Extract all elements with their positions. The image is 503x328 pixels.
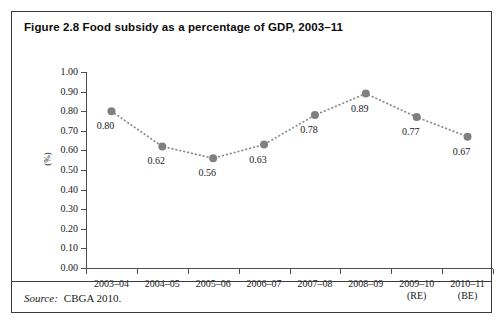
data-point-label: 0.89 xyxy=(335,103,385,114)
data-point-marker xyxy=(158,142,166,150)
source-divider xyxy=(12,281,491,282)
data-point-marker xyxy=(464,133,472,141)
chart-plot-area: (%) 1.000.900.800.700.600.500.400.300.20… xyxy=(12,46,491,280)
x-axis-tick-mark xyxy=(493,269,494,274)
source-text: CBGA 2010. xyxy=(64,292,121,304)
figure-title: Figure 2.8 Food subsidy as a percentage … xyxy=(24,21,343,33)
source-note: Source:CBGA 2010. xyxy=(24,292,121,304)
data-point-label: 0.56 xyxy=(182,167,232,178)
x-axis-tick-note: (BE) xyxy=(435,290,501,302)
source-label: Source: xyxy=(24,292,58,304)
data-point-marker xyxy=(362,90,370,98)
data-point-label: 0.63 xyxy=(233,154,283,165)
data-point-label: 0.77 xyxy=(386,126,436,137)
data-point-label: 0.62 xyxy=(131,155,181,166)
data-point-label: 0.67 xyxy=(437,146,487,157)
data-point-label: 0.80 xyxy=(80,120,130,131)
data-point-marker xyxy=(107,107,115,115)
data-point-marker xyxy=(311,111,319,119)
data-point-marker xyxy=(209,154,217,162)
data-point-marker xyxy=(413,113,421,121)
data-point-marker xyxy=(260,141,268,149)
data-point-label: 0.78 xyxy=(284,124,334,135)
figure-panel: Figure 2.8 Food subsidy as a percentage … xyxy=(11,11,492,313)
